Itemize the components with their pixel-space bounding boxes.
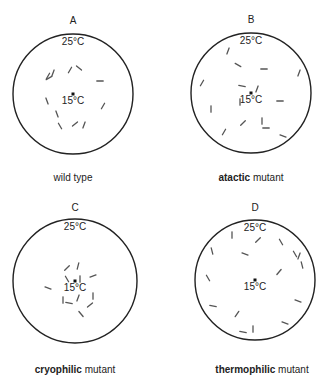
plate-d: 25°C15°C bbox=[195, 220, 315, 340]
panel-letter-a: A bbox=[70, 15, 77, 26]
worm-icon bbox=[56, 111, 58, 117]
worm-icon bbox=[295, 300, 301, 302]
worm-icon bbox=[235, 63, 241, 66]
worm-icon bbox=[65, 276, 68, 282]
diagram-canvas: 25°C15°C25°C15°C25°C15°C25°C15°C bbox=[0, 0, 328, 386]
caption-d-bold: thermophilic bbox=[215, 364, 275, 375]
panel-letter-d: D bbox=[251, 202, 258, 213]
worm-icon bbox=[298, 253, 300, 259]
worm-icon bbox=[293, 251, 296, 257]
worm-icon bbox=[256, 238, 261, 243]
outer-temp-label: 25°C bbox=[240, 35, 262, 46]
center-temp-label: 15°C bbox=[64, 282, 86, 293]
worm-icon bbox=[200, 80, 203, 86]
worm-icon bbox=[280, 135, 286, 137]
worm-icon bbox=[88, 303, 93, 307]
worm-icon bbox=[256, 86, 258, 92]
worm-icon bbox=[83, 122, 85, 128]
plate-b: 25°C15°C bbox=[191, 33, 311, 153]
worm-icon bbox=[73, 122, 78, 126]
worm-icon bbox=[65, 266, 70, 271]
worm-icon bbox=[46, 98, 48, 104]
worm-icon bbox=[227, 48, 229, 54]
plate-a: 25°C15°C bbox=[13, 34, 133, 154]
worm-icon bbox=[277, 270, 281, 275]
worm-icon bbox=[210, 305, 216, 306]
worm-icon bbox=[239, 85, 245, 86]
caption-d-text: mutant bbox=[275, 364, 308, 375]
caption-c-bold: cryophilic bbox=[35, 364, 82, 375]
worm-icon bbox=[77, 295, 79, 301]
worm-icon bbox=[77, 66, 82, 70]
caption-b-text: mutant bbox=[250, 172, 283, 183]
worm-icon bbox=[235, 311, 239, 316]
worm-icon bbox=[279, 239, 282, 245]
worm-icon bbox=[282, 322, 288, 324]
worm-icon bbox=[211, 248, 213, 254]
panel-letter-b: B bbox=[248, 14, 255, 25]
worm-icon bbox=[45, 287, 51, 289]
worm-icon bbox=[77, 263, 79, 269]
caption-d: thermophilic mutant bbox=[215, 364, 308, 375]
center-temp-label: 15°C bbox=[244, 281, 266, 292]
caption-a: wild type bbox=[54, 172, 93, 183]
worm-icon bbox=[222, 129, 225, 135]
worm-icon bbox=[68, 67, 71, 73]
caption-a-text: wild type bbox=[54, 172, 93, 183]
worm-icon bbox=[298, 70, 300, 76]
worm-icon bbox=[79, 312, 83, 317]
outer-temp-label: 25°C bbox=[64, 221, 86, 232]
center-temp-label: 15°C bbox=[240, 94, 262, 105]
worm-icon bbox=[58, 123, 61, 129]
worm-icon bbox=[90, 275, 96, 277]
center-temp-label: 15°C bbox=[62, 95, 84, 106]
worm-icon bbox=[241, 121, 246, 126]
worm-icon bbox=[101, 103, 104, 109]
worm-icon bbox=[301, 262, 303, 268]
plate-c: 25°C15°C bbox=[13, 219, 137, 343]
caption-b: atactic mutant bbox=[218, 172, 283, 183]
worm-icon bbox=[52, 70, 54, 76]
worm-icon bbox=[242, 253, 248, 255]
worm-icon bbox=[66, 302, 72, 303]
caption-b-bold: atactic bbox=[218, 172, 250, 183]
outer-temp-label: 25°C bbox=[62, 36, 84, 47]
worm-icon bbox=[240, 331, 246, 332]
caption-c-text: mutant bbox=[82, 364, 115, 375]
panel-letter-c: C bbox=[71, 202, 78, 213]
outer-temp-label: 25°C bbox=[244, 222, 266, 233]
worm-icon bbox=[206, 275, 209, 281]
caption-c: cryophilic mutant bbox=[35, 364, 116, 375]
